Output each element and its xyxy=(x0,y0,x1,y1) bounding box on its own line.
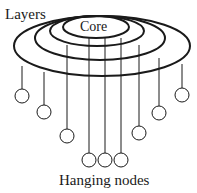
hanging-node xyxy=(37,105,51,119)
hanging-node xyxy=(60,129,74,143)
onion-layer-diagram: Layers Core Hanging nodes xyxy=(0,0,197,193)
hanging-node-circles xyxy=(15,88,189,167)
hanging-node xyxy=(132,126,146,140)
hanging-node xyxy=(15,89,29,103)
hanging-lines xyxy=(22,38,182,153)
hanging-nodes-label: Hanging nodes xyxy=(59,173,149,188)
hanging-node xyxy=(98,153,112,167)
layers-label: Layers xyxy=(5,7,46,22)
hanging-node xyxy=(175,88,189,102)
hanging-node xyxy=(114,153,128,167)
hanging-node xyxy=(152,106,166,120)
hanging-node xyxy=(82,153,96,167)
core-label: Core xyxy=(80,20,107,34)
